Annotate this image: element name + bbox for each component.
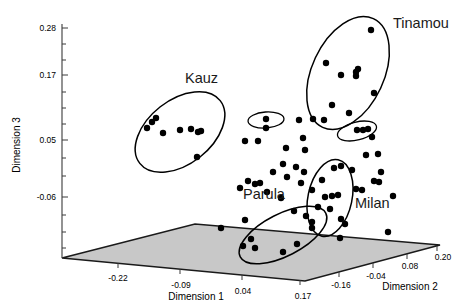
datapoint — [322, 194, 328, 200]
dimension-2-tick-2: 0.08 — [402, 261, 419, 271]
datapoint — [346, 110, 352, 116]
dimension-3-tick-0: 0.28 — [39, 23, 56, 33]
cluster-label-milan: Milan — [355, 195, 390, 211]
datapoint — [369, 134, 375, 140]
datapoint — [248, 236, 254, 242]
datapoint — [323, 60, 329, 66]
datapoint — [300, 135, 306, 141]
dimension-1-tick-2: 0.04 — [235, 286, 252, 296]
datapoint — [365, 126, 371, 132]
dimension-1-tick-1: -0.09 — [171, 280, 191, 290]
datapoint — [255, 138, 261, 144]
datapoint — [309, 219, 315, 225]
dimension-2-tick-3: 0.20 — [435, 252, 452, 262]
datapoint — [337, 235, 343, 241]
scatter-plot-figure: 0.28 0.17 0.05 -0.06 Dimension 3 -0.22 -… — [0, 0, 475, 307]
datapoint — [296, 117, 302, 123]
datapoint — [280, 249, 286, 255]
datapoint — [331, 165, 337, 171]
datapoint — [315, 204, 321, 210]
datapoint — [378, 169, 384, 175]
datapoint — [338, 72, 344, 78]
datapoint — [310, 116, 316, 122]
datapoint — [194, 154, 200, 160]
datapoint — [293, 164, 299, 170]
dimension-1-axis-title: Dimension 1 — [168, 291, 224, 302]
datapoint — [240, 243, 246, 249]
datapoint — [354, 127, 360, 133]
datapoint — [263, 125, 269, 131]
datapoint — [376, 179, 382, 185]
datapoint-group — [144, 27, 396, 255]
datapoint — [335, 192, 341, 198]
datapoint — [280, 161, 286, 167]
datapoint — [302, 147, 308, 153]
datapoint — [291, 208, 297, 214]
dimension-2-axis-title: Dimension 2 — [382, 281, 438, 292]
datapoint — [177, 127, 183, 133]
datapoint — [284, 174, 290, 180]
datapoint — [338, 163, 344, 169]
datapoint — [245, 178, 251, 184]
datapoint — [329, 193, 335, 199]
dimension-1-tick-3: 0.17 — [295, 291, 312, 301]
datapoint — [301, 169, 307, 175]
datapoint — [309, 187, 315, 193]
datapoint — [198, 128, 204, 134]
cluster-label-tinamou: Tinamou — [393, 15, 449, 31]
datapoint — [218, 225, 224, 231]
datapoint — [303, 213, 309, 219]
datapoint — [353, 186, 359, 192]
datapoint — [270, 169, 276, 175]
datapoint — [375, 151, 381, 157]
datapoint — [359, 187, 365, 193]
datapoint — [294, 241, 300, 247]
dimension-3-axis-title: Dimension 3 — [11, 117, 22, 173]
datapoint — [188, 126, 194, 132]
dimension-3-major-ticks — [62, 28, 68, 197]
dimension-3-tick-2: 0.05 — [39, 135, 56, 145]
datapoint — [252, 245, 258, 251]
datapoint — [385, 229, 391, 235]
datapoint — [363, 152, 369, 158]
datapoint — [283, 145, 289, 151]
cluster-label-parula: Parula — [243, 186, 286, 202]
datapoint — [309, 225, 315, 231]
dimension-3-tick-3: -0.06 — [37, 192, 57, 202]
datapoint — [338, 216, 344, 222]
datapoint — [298, 180, 304, 186]
datapoint — [329, 102, 335, 108]
datapoint — [371, 90, 377, 96]
datapoint — [353, 73, 359, 79]
dimension-1-tick-0: -0.22 — [108, 273, 128, 283]
datapoint — [349, 167, 355, 173]
datapoint — [368, 27, 374, 33]
datapoint — [321, 117, 327, 123]
datapoint — [390, 193, 396, 199]
cluster-label-kauz: Kauz — [185, 70, 218, 86]
datapoint — [144, 125, 150, 131]
datapoint — [153, 115, 159, 121]
datapoint — [319, 177, 325, 183]
datapoint — [160, 130, 166, 136]
dimension-3-tick-1: 0.17 — [39, 70, 56, 80]
cluster-ellipse-tinamou — [290, 3, 406, 142]
datapoint — [355, 66, 361, 72]
dimension-2-tick-0: -0.16 — [331, 280, 351, 290]
datapoint — [327, 206, 333, 212]
plot-canvas: 0.28 0.17 0.05 -0.06 Dimension 3 -0.22 -… — [0, 0, 475, 307]
datapoint — [242, 138, 248, 144]
datapoint — [263, 116, 269, 122]
dimension-2-tick-1: -0.04 — [366, 271, 386, 281]
datapoint — [242, 217, 248, 223]
datapoint — [342, 221, 348, 227]
